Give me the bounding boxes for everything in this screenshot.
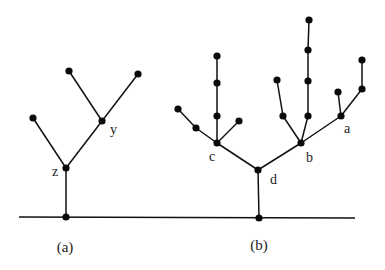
node-label-c: c [209,149,215,164]
tree-b-node-a [337,112,344,119]
tree-b-edge [178,109,196,128]
tree-b-node [273,76,280,83]
tree-b-node [213,52,220,59]
tree-b-edge [338,92,341,116]
tree-b-node-c [213,139,220,146]
tree-a-node [134,70,141,77]
tree-b-node [279,112,286,119]
node-label-a: a [344,121,351,136]
caption-b: (b) [250,237,268,254]
tree-b-node-b [297,139,304,146]
tree-a-node-z [62,164,69,171]
tree-a-node-y [98,117,105,124]
tree-b-edge [308,20,309,50]
node-label-d: d [270,172,277,187]
tree-b-node [213,79,220,86]
tree-diagram: zydcba (a) (b) [0,0,385,270]
tree-a-node [29,114,36,121]
tree-b-edge [341,89,362,116]
node-label-b: b [306,150,313,165]
tree-b-edge [283,116,301,143]
tree-b-node [235,117,242,124]
tree-b-edge [258,170,259,218]
tree-a-node [62,213,69,220]
tree-a-edge [66,121,102,168]
tree-nodes [29,16,365,221]
tree-b-node [304,112,311,119]
caption-a: (a) [57,239,74,256]
tree-edges [33,20,362,218]
tree-b-node [304,77,311,84]
tree-a-edge [33,118,66,168]
tree-b-node [304,46,311,53]
tree-b-edge [217,143,258,170]
tree-b-node [358,85,365,92]
tree-a-edge [102,74,138,121]
tree-b-edge [217,121,239,143]
tree-b-node-d [254,166,261,173]
node-label-z: z [52,164,58,179]
tree-a-edge [69,71,102,121]
tree-b-edge [258,143,301,170]
node-label-y: y [110,122,117,137]
tree-b-node [334,88,341,95]
tree-b-edge [277,80,283,116]
tree-b-node [358,56,365,63]
tree-b-edge [196,128,217,143]
node-labels: zydcba [52,121,351,187]
tree-a-node [65,67,72,74]
tree-b-node [255,214,262,221]
tree-b-node [192,124,199,131]
tree-b-node [174,105,181,112]
tree-b-node [305,16,312,23]
tree-b-node [213,112,220,119]
